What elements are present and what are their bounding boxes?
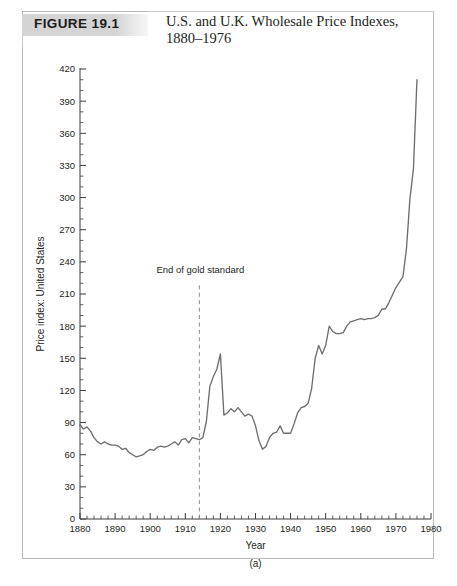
y-tick-180: 180 (59, 321, 75, 332)
x-tick-1940: 1940 (280, 523, 301, 534)
y-tick-330: 330 (59, 160, 75, 171)
y-tick-60: 60 (64, 449, 75, 460)
y-tick-390: 390 (59, 96, 75, 107)
x-tick-1980: 1980 (420, 523, 441, 534)
y-tick-360: 360 (59, 128, 75, 139)
price-index-line-chart: 0306090120150180210240270300330360390420… (0, 0, 457, 586)
panel-label: (a) (249, 558, 261, 569)
x-tick-1880: 1880 (69, 523, 90, 534)
x-tick-1950: 1950 (315, 523, 336, 534)
x-tick-1890: 1890 (105, 523, 126, 534)
x-tick-1920: 1920 (210, 523, 231, 534)
x-axis-title: Year (245, 540, 266, 551)
y-tick-150: 150 (59, 353, 75, 364)
us-price-index-series-line (80, 80, 417, 457)
x-tick-1970: 1970 (385, 523, 406, 534)
y-axis-tick-labels: 0306090120150180210240270300330360390420 (59, 63, 75, 524)
y-tick-120: 120 (59, 385, 75, 396)
y-tick-270: 270 (59, 224, 75, 235)
gold-standard-annotation-label: End of gold standard (156, 264, 244, 275)
x-axis-tick-labels: 1880189019001910192019301940195019601970… (69, 523, 441, 534)
y-axis-title: Price index: United States (35, 236, 46, 351)
x-axis-ticks (80, 513, 431, 519)
y-tick-210: 210 (59, 288, 75, 299)
y-tick-90: 90 (64, 417, 75, 428)
y-tick-30: 30 (64, 481, 75, 492)
y-tick-300: 300 (59, 192, 75, 203)
figure-root: FIGURE 19.1 U.S. and U.K. Wholesale Pric… (0, 0, 457, 586)
x-tick-1960: 1960 (350, 523, 371, 534)
x-tick-1910: 1910 (175, 523, 196, 534)
y-tick-240: 240 (59, 256, 75, 267)
x-tick-1930: 1930 (245, 523, 266, 534)
y-tick-420: 420 (59, 63, 75, 74)
chart-plot-area: 0306090120150180210240270300330360390420… (0, 0, 457, 586)
x-tick-1900: 1900 (140, 523, 161, 534)
y-axis-ticks (80, 69, 86, 519)
